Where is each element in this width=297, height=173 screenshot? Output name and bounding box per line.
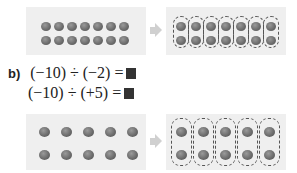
group-oval bbox=[233, 16, 249, 48]
counter-icon bbox=[119, 22, 129, 31]
counter-icon bbox=[54, 36, 64, 45]
counter-icon bbox=[105, 127, 116, 137]
counter-icon bbox=[61, 127, 72, 137]
bottom-left-counter-panel bbox=[26, 114, 146, 170]
answer-box-2[interactable] bbox=[124, 88, 134, 99]
group-oval bbox=[248, 16, 264, 48]
counter-icon bbox=[67, 36, 77, 45]
counter-icon bbox=[54, 22, 64, 31]
counter-icon bbox=[106, 22, 116, 31]
part-b-equations: b) (−10) ÷ (−2) = (−10) ÷ (+5) = bbox=[8, 64, 288, 108]
group-oval bbox=[215, 118, 236, 166]
counter-icon bbox=[93, 22, 103, 31]
counter-icon bbox=[67, 22, 77, 31]
counter-icon bbox=[41, 36, 51, 45]
counter-icon bbox=[83, 127, 94, 137]
group-oval bbox=[188, 16, 204, 48]
counter-icon bbox=[39, 127, 50, 137]
top-left-counter-panel bbox=[26, 7, 146, 55]
bottom-right-grouped-panel bbox=[166, 114, 286, 170]
counter-icon bbox=[119, 36, 129, 45]
answer-box-1[interactable] bbox=[126, 68, 136, 79]
counter-icon bbox=[105, 150, 116, 160]
group-oval bbox=[263, 16, 279, 48]
part-b-label: b) bbox=[8, 66, 20, 81]
counter-icon bbox=[127, 150, 138, 160]
group-oval bbox=[259, 118, 280, 166]
group-oval bbox=[193, 118, 214, 166]
counter-icon bbox=[41, 22, 51, 31]
counter-icon bbox=[127, 127, 138, 137]
counter-icon bbox=[80, 22, 90, 31]
equation-1-text: (−10) ÷ (−2) = bbox=[30, 64, 123, 81]
counter-icon bbox=[93, 36, 103, 45]
group-oval bbox=[173, 16, 189, 48]
equation-2-text: (−10) ÷ (+5) = bbox=[28, 84, 121, 101]
counter-icon bbox=[39, 150, 50, 160]
equation-1: b) (−10) ÷ (−2) = bbox=[8, 64, 136, 82]
equation-2: (−10) ÷ (+5) = bbox=[28, 84, 134, 102]
top-right-grouped-panel bbox=[166, 7, 286, 55]
group-oval bbox=[171, 118, 192, 166]
counter-icon bbox=[80, 36, 90, 45]
counter-icon bbox=[61, 150, 72, 160]
group-oval bbox=[218, 16, 234, 48]
counter-icon bbox=[83, 150, 94, 160]
group-oval bbox=[237, 118, 258, 166]
counter-icon bbox=[106, 36, 116, 45]
group-oval bbox=[203, 16, 219, 48]
